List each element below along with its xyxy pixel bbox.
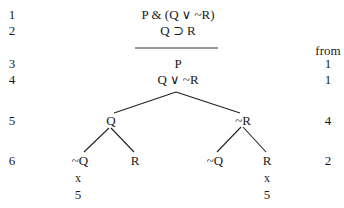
truth-tree-diagram: 1 2 3 4 5 6 P & (Q ∨ ~R) Q ⊃ R P Q ∨ ~R … — [0, 0, 344, 208]
branch-not-r: ~R — [235, 114, 251, 127]
from-line-3: 1 — [325, 57, 332, 70]
closure-ref-left: 5 — [75, 188, 82, 201]
derived-p: P — [174, 57, 181, 70]
from-line-6: 2 — [325, 154, 332, 167]
line-number-1: 1 — [9, 8, 16, 21]
leaf-r-left: R — [131, 154, 140, 167]
line-number-6: 6 — [9, 154, 16, 167]
closure-mark-right: x — [264, 172, 270, 184]
line-number-3: 3 — [9, 57, 16, 70]
derived-disjunction: Q ∨ ~R — [157, 73, 198, 86]
leaf-not-q-left: ~Q — [72, 154, 88, 167]
line-number-4: 4 — [9, 73, 16, 86]
line-number-2: 2 — [9, 24, 16, 37]
leaf-r-right: R — [263, 154, 272, 167]
closure-ref-right: 5 — [264, 188, 271, 201]
premise-1: P & (Q ∨ ~R) — [141, 8, 214, 21]
leaf-not-q-right: ~Q — [207, 154, 223, 167]
from-line-4: 1 — [325, 73, 332, 86]
line-number-5: 5 — [9, 114, 16, 127]
closure-mark-left: x — [75, 172, 81, 184]
branch-q: Q — [106, 114, 115, 127]
from-line-5: 4 — [325, 114, 332, 127]
premise-2: Q ⊃ R — [160, 24, 195, 37]
